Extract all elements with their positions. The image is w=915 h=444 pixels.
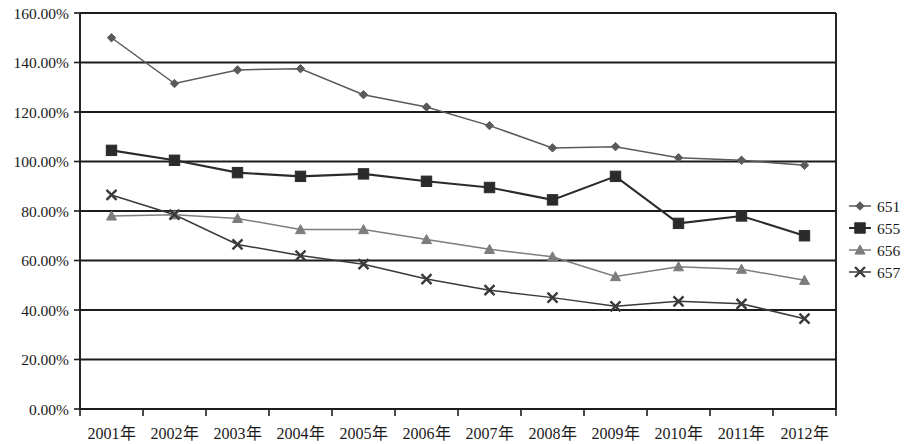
legend-label-655[interactable]: 655 — [877, 220, 901, 237]
data-point-655-2008年 — [547, 195, 557, 205]
data-point-651-2007年 — [485, 121, 493, 129]
x-tick-label: 2003年 — [214, 425, 262, 442]
data-point-655-2001年 — [106, 145, 116, 155]
data-point-655-2002年 — [169, 155, 179, 165]
data-point-657-2001年 — [107, 190, 117, 200]
y-tick-label: 120.00% — [13, 104, 69, 121]
data-point-651-2006年 — [422, 103, 430, 111]
data-point-655-2003年 — [232, 167, 242, 177]
line-chart: 0.00%20.00%40.00%60.00%80.00%100.00%120.… — [0, 0, 915, 444]
data-point-651-2009年 — [611, 142, 619, 150]
y-tick-label: 100.00% — [13, 153, 69, 170]
y-axis-tick-labels: 0.00%20.00%40.00%60.00%80.00%100.00%120.… — [13, 5, 69, 418]
data-point-657-2012年 — [800, 314, 810, 324]
data-point-651-2008年 — [548, 144, 556, 152]
data-point-655-2007年 — [484, 182, 494, 192]
legend: 651655656657 — [849, 198, 901, 281]
x-tick-label: 2004年 — [277, 425, 325, 442]
legend-label-657[interactable]: 657 — [877, 264, 901, 281]
data-point-651-2004年 — [296, 64, 304, 72]
legend-label-656[interactable]: 656 — [877, 242, 901, 259]
x-tick-marks — [80, 409, 836, 416]
series-markers — [106, 34, 809, 324]
x-tick-label: 2005年 — [340, 425, 388, 442]
series-lines — [112, 38, 805, 319]
legend-label-651[interactable]: 651 — [877, 198, 900, 215]
legend-marker-655 — [855, 223, 865, 233]
y-tick-label: 20.00% — [21, 351, 69, 368]
legend-marker-651 — [856, 202, 864, 210]
data-point-655-2004年 — [295, 171, 305, 181]
y-tick-label: 160.00% — [13, 5, 69, 22]
y-tick-label: 60.00% — [21, 252, 69, 269]
series-line-655 — [112, 150, 805, 235]
data-point-655-2006年 — [421, 176, 431, 186]
x-tick-label: 2010年 — [655, 425, 703, 442]
y-tick-label: 40.00% — [21, 302, 69, 319]
gridlines — [80, 13, 836, 360]
chart-page: 0.00%20.00%40.00%60.00%80.00%100.00%120.… — [0, 0, 915, 444]
data-point-655-2011年 — [736, 211, 746, 221]
data-point-655-2010年 — [673, 218, 683, 228]
x-tick-label: 2012年 — [781, 425, 829, 442]
y-tick-label: 140.00% — [13, 54, 69, 71]
x-tick-label: 2006年 — [403, 425, 451, 442]
data-point-655-2009年 — [610, 171, 620, 181]
x-tick-label: 2008年 — [529, 425, 577, 442]
x-tick-label: 2002年 — [151, 425, 199, 442]
data-point-655-2012年 — [799, 231, 809, 241]
data-point-651-2003年 — [233, 66, 241, 74]
x-tick-label: 2001年 — [88, 425, 136, 442]
series-line-651 — [112, 38, 805, 165]
data-point-651-2011年 — [737, 156, 745, 164]
data-point-651-2005年 — [359, 90, 367, 98]
x-tick-label: 2007年 — [466, 425, 514, 442]
series-line-656 — [112, 215, 805, 281]
data-point-655-2005年 — [358, 169, 368, 179]
chart-svg: 0.00%20.00%40.00%60.00%80.00%100.00%120.… — [0, 0, 915, 444]
y-tick-label: 80.00% — [21, 203, 69, 220]
series-line-657 — [112, 195, 805, 319]
x-axis-tick-labels: 2001年2002年2003年2004年2005年2006年2007年2008年… — [88, 425, 829, 442]
x-tick-label: 2009年 — [592, 425, 640, 442]
x-tick-label: 2011年 — [718, 425, 765, 442]
y-tick-label: 0.00% — [29, 401, 69, 418]
